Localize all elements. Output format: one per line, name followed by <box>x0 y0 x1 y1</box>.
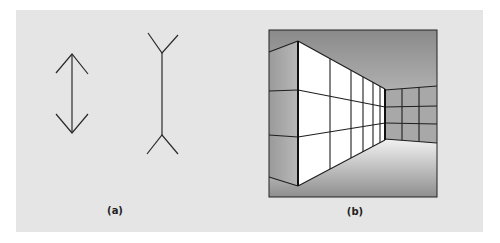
line-outward-fins <box>147 33 178 154</box>
room-picture <box>269 30 437 197</box>
subfigure-label-b: (b) <box>347 206 363 217</box>
illusion-figures <box>0 0 500 243</box>
arrow-inward-heads <box>56 54 88 133</box>
subfigure-label-a: (a) <box>107 205 123 216</box>
